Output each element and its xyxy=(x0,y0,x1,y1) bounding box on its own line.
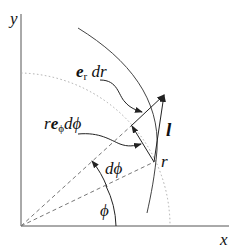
er-dr-label: er dr xyxy=(76,63,107,82)
trajectory-curve xyxy=(78,28,157,213)
r-ephi-dphi-label: reϕdϕ xyxy=(44,115,81,134)
vector-r-ephi-dphi xyxy=(132,126,154,162)
callout-rephi xyxy=(78,134,141,146)
phi-label: ϕ xyxy=(100,202,109,219)
diagram-canvas xyxy=(0,0,240,252)
polar-displacement-diagram: y x er dr reϕdϕ l r dϕ ϕ xyxy=(0,0,240,252)
callout-er-dr xyxy=(100,80,142,112)
radial-line-phi xyxy=(21,162,154,226)
dphi-label: dϕ xyxy=(105,160,122,177)
r-point-label: r xyxy=(161,153,168,170)
y-axis-label: y xyxy=(10,10,18,27)
l-label: l xyxy=(166,120,171,139)
radius-arc xyxy=(21,73,170,226)
x-axis-label: x xyxy=(220,231,228,248)
